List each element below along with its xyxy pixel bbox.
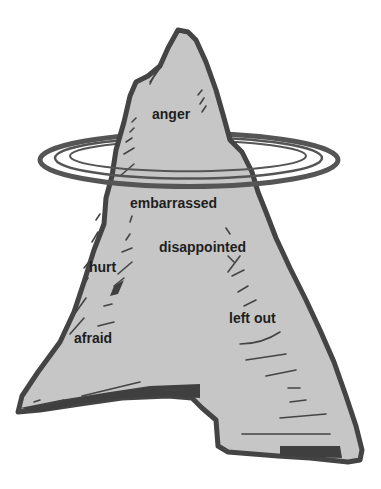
label-disappointed: disappointed <box>159 240 246 254</box>
label-embarrassed: embarrassed <box>130 196 217 210</box>
iceberg-diagram: anger embarrassed disappointed hurt left… <box>0 0 381 489</box>
label-hurt: hurt <box>89 260 116 274</box>
label-left-out: left out <box>229 311 276 325</box>
label-anger: anger <box>152 107 190 121</box>
label-afraid: afraid <box>74 331 112 345</box>
